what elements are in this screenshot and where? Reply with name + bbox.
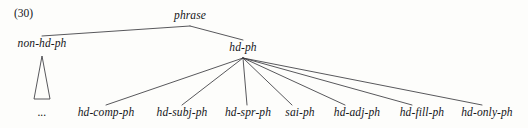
node-label-phrase: phrase: [174, 9, 206, 21]
leaf-label-hd-spr-ph: hd-spr-ph: [225, 106, 271, 118]
tree-edge-hd-only-ph: [243, 58, 482, 105]
leaf-label-hd-fill-ph: hd-fill-ph: [400, 106, 444, 118]
node-label-hd-ph: hd-ph: [229, 41, 256, 53]
leaf-label-sai-ph: sai-ph: [285, 106, 314, 118]
abbreviation-triangle: [34, 56, 50, 99]
tree-edge-hd-ph: [190, 26, 243, 40]
top-level-edges: [42, 26, 243, 40]
tree-edge-hd-fill-ph: [243, 58, 412, 105]
tree-edge-hd-adj-ph: [243, 58, 345, 105]
tree-edge-hd-comp-ph: [106, 58, 243, 105]
tree-edge-hd-subj-ph: [182, 58, 243, 105]
leaf-label-hd-comp-ph: hd-comp-ph: [78, 106, 135, 118]
tree-edge-non-hd-ph: [42, 26, 190, 36]
node-label-non-hd-ph: non-hd-ph: [18, 37, 67, 49]
head-phrase-fan-edges: [106, 58, 482, 105]
tree-edge-hd-spr-ph: [243, 58, 247, 105]
leaf-label-hd-subj-ph: hd-subj-ph: [157, 106, 208, 118]
node-label-ellipsis: ...: [38, 106, 47, 118]
tree-diagram-figure: (30) phrase non-hd-ph hd-ph ... hd-comp-…: [0, 0, 528, 128]
leaf-label-hd-only-ph: hd-only-ph: [461, 106, 512, 118]
leaf-label-hd-adj-ph: hd-adj-ph: [334, 106, 380, 118]
